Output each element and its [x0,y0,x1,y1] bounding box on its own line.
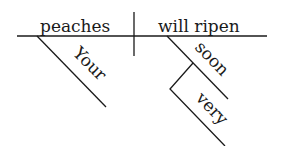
sentence-diagram: peaches will ripen Your soon very [0,0,285,146]
very-modifier-word: very [191,87,232,129]
soon-modifier-word: soon [191,37,233,80]
your-modifier-word: Your [68,42,111,85]
predicate-word: will ripen [158,16,240,36]
subject-word: peaches [40,16,110,36]
